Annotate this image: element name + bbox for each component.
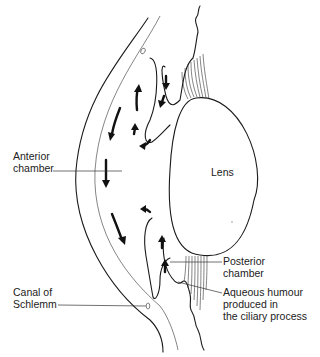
aqueous-humour-label: Aqueous humour produced in the ciliary p…	[223, 286, 307, 322]
lens-label: Lens	[211, 166, 234, 178]
canal-of-schlemm-label: Canal of Schlemm	[13, 286, 57, 310]
posterior-chamber-label: Posterior chamber	[223, 255, 268, 279]
upper-ciliary-body	[162, 6, 200, 105]
canal-of-schlemm-oval	[146, 303, 150, 309]
flow-arrows	[102, 76, 170, 272]
stray-dot	[231, 221, 233, 223]
lower-iris	[145, 218, 170, 298]
anterior-chamber-label: Anterior chamber	[13, 150, 54, 174]
upper-zonule-fibers	[182, 54, 209, 99]
aqueous-humour-leader	[178, 282, 222, 293]
upper-iris	[145, 58, 170, 143]
aqueous-humour-diagram: Lens Anterior chamber Canal of Schlemm P…	[0, 0, 320, 357]
lower-zonule-fibers	[184, 255, 207, 310]
cornea-outer-surface	[76, 18, 163, 352]
